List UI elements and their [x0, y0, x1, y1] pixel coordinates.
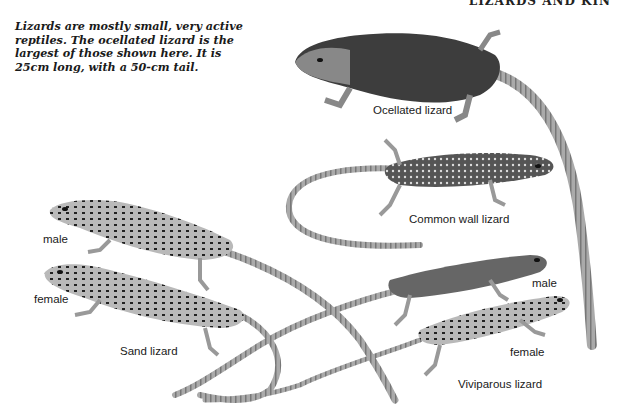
label-common-wall-lizard: Common wall lizard — [409, 213, 509, 225]
label-viviparous-female: female — [510, 346, 545, 358]
common-wall-lizard-drawing — [289, 140, 553, 246]
label-viviparous-lizard: Viviparous lizard — [458, 378, 542, 390]
label-sand-lizard: Sand lizard — [120, 345, 178, 357]
label-sand-female: female — [34, 293, 69, 305]
label-viviparous-male: male — [532, 277, 557, 289]
sand-lizard-female-drawing — [45, 264, 278, 400]
label-ocellated-lizard: Ocellated lizard — [373, 104, 452, 116]
label-sand-male: male — [43, 233, 68, 245]
